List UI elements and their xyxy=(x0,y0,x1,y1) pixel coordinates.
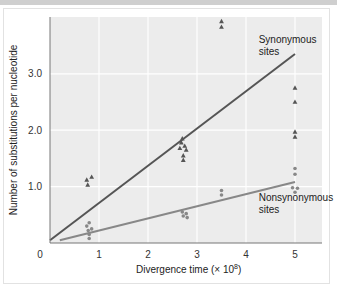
x-tick-label: 5 xyxy=(292,249,298,260)
x-tick-label: 0 xyxy=(37,249,43,260)
nonsynonymous-point xyxy=(181,210,185,214)
x-tick-label: 2 xyxy=(145,249,151,260)
nonsynonymous-point xyxy=(87,221,91,225)
nonsynonymous-point xyxy=(87,233,91,237)
x-axis-label: Divergence time (× 108) xyxy=(136,263,241,275)
nonsynonymous-point xyxy=(181,214,185,218)
nonsynonymous-point xyxy=(293,167,297,171)
nonsynonymous-point xyxy=(291,186,295,190)
nonsynonymous-point xyxy=(87,237,91,241)
y-tick-label: 1.0 xyxy=(28,181,42,192)
nonsynonymous-point xyxy=(85,224,89,228)
nonsynonymous-point xyxy=(220,193,224,197)
nonsynonymous-point xyxy=(220,189,224,193)
scatter-chart: 0123451.02.03.0 SynonymoussitesNonsynony… xyxy=(0,0,337,292)
x-tick-label: 1 xyxy=(96,249,102,260)
y-tick-label: 3.0 xyxy=(28,68,42,79)
nonsynonymous-point xyxy=(293,172,297,176)
nonsynonymous-point xyxy=(90,227,94,231)
y-tick-label: 2.0 xyxy=(28,125,42,136)
nonsynonymous-point xyxy=(86,229,90,233)
nonsynonymous-point xyxy=(184,212,188,216)
y-axis-label: Number of substitutions per nucleotide xyxy=(8,44,19,215)
nonsynonymous-point xyxy=(296,186,300,190)
x-tick-label: 4 xyxy=(243,249,249,260)
nonsynonymous-point xyxy=(185,216,189,220)
x-tick-label: 3 xyxy=(194,249,200,260)
